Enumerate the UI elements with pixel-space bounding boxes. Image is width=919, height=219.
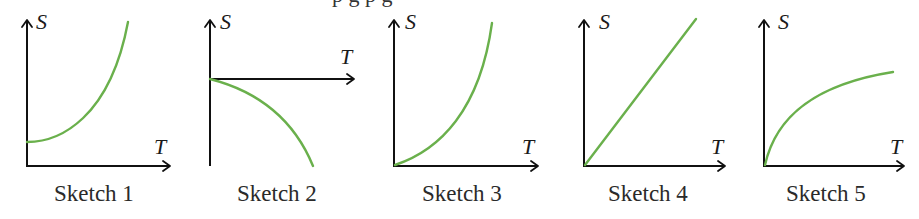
sketch-caption: Sketch 1 xyxy=(54,181,134,206)
x-axis-label: T xyxy=(711,134,725,159)
sketches-figure: p g p g S T Sketch 1 S T Sketch 2 S T xyxy=(0,0,919,219)
curve xyxy=(210,79,313,166)
sketch-caption: Sketch 4 xyxy=(608,181,688,206)
curve xyxy=(765,72,893,165)
sketch-2: S T Sketch 2 xyxy=(205,9,354,206)
y-axis-label: S xyxy=(405,9,416,34)
y-axis-label: S xyxy=(220,9,231,34)
sketch-caption: Sketch 3 xyxy=(422,181,502,206)
y-axis-label: S xyxy=(36,9,47,34)
sketch-1: S T Sketch 1 xyxy=(22,9,170,206)
x-axis-label: T xyxy=(154,134,168,159)
sketch-5: S T Sketch 5 xyxy=(759,9,904,206)
line xyxy=(585,19,696,165)
header-fragment: p g p g xyxy=(332,0,393,7)
curve xyxy=(395,23,492,165)
sketch-3: S T Sketch 3 xyxy=(389,9,538,206)
x-axis-label: T xyxy=(340,44,354,69)
sketch-caption: Sketch 2 xyxy=(237,181,317,206)
curve xyxy=(27,22,128,142)
cropped-header-text: p g p g xyxy=(332,0,393,7)
y-axis-label: S xyxy=(599,9,610,34)
sketch-caption: Sketch 5 xyxy=(786,181,866,206)
x-axis-label: T xyxy=(522,134,536,159)
y-axis-label: S xyxy=(778,9,789,34)
sketch-4: S T Sketch 4 xyxy=(579,9,725,206)
x-axis-label: T xyxy=(890,134,904,159)
